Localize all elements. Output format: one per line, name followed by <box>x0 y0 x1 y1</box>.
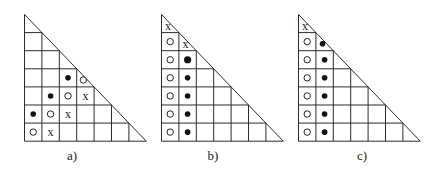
open-circle-mark <box>80 77 86 83</box>
x-mark: x <box>82 89 88 103</box>
filled-dot-mark <box>184 56 191 63</box>
x-mark: x <box>48 125 54 139</box>
open-circle-mark <box>65 93 71 99</box>
filled-dot-mark <box>322 93 328 99</box>
open-circle-mark <box>47 111 53 117</box>
triangle-grid-b: xx <box>161 14 285 143</box>
filled-dot-mark <box>185 93 191 99</box>
triangle-outline <box>299 14 421 141</box>
open-circle-mark <box>304 38 310 44</box>
open-circle-mark <box>304 129 310 135</box>
panel-a: xxx <box>24 14 146 141</box>
triangle-grid-c: x <box>298 14 422 143</box>
filled-dot-mark <box>48 93 54 99</box>
open-circle-mark <box>30 129 36 135</box>
open-circle-mark <box>167 111 173 117</box>
open-circle-mark <box>167 129 173 135</box>
x-mark: x <box>165 19 171 33</box>
filled-dot-mark <box>322 129 328 135</box>
filled-dot-mark <box>322 75 328 81</box>
filled-dot-mark <box>185 129 191 135</box>
triangle-outline <box>162 14 284 141</box>
filled-dot-mark <box>65 75 71 81</box>
triangle-grid-a: xxx <box>24 14 148 143</box>
panel-label-b: b) <box>208 148 219 164</box>
figure: xxx a) xx b) x c) <box>0 0 444 170</box>
filled-dot-mark <box>185 111 191 117</box>
open-circle-mark <box>304 111 310 117</box>
open-circle-mark <box>304 93 310 99</box>
filled-dot-mark <box>30 111 36 117</box>
panel-c: x <box>298 14 420 141</box>
open-circle-mark <box>167 93 173 99</box>
open-circle-mark <box>304 57 310 63</box>
filled-dot-mark <box>185 75 191 81</box>
x-mark: x <box>302 19 308 33</box>
filled-dot-mark <box>322 111 328 117</box>
open-circle-mark <box>304 75 310 81</box>
x-mark: x <box>183 37 189 51</box>
x-mark: x <box>65 107 71 121</box>
panel-label-c: c) <box>357 148 367 164</box>
open-circle-mark <box>167 75 173 81</box>
open-circle-mark <box>167 38 173 44</box>
filled-dot-mark <box>320 41 326 47</box>
filled-dot-mark <box>322 57 328 63</box>
open-circle-mark <box>167 57 173 63</box>
panel-b: xx <box>161 14 283 141</box>
panel-label-a: a) <box>67 148 77 164</box>
